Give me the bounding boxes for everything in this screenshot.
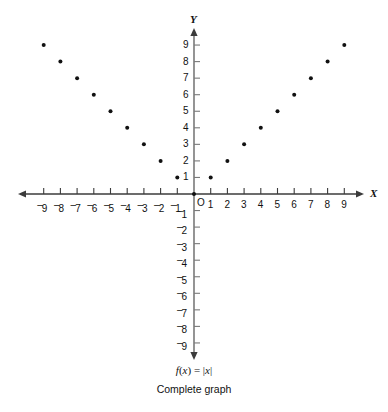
data-point [75, 76, 79, 80]
data-point [58, 60, 62, 64]
absolute-value-graph-figure: X Y O –9–8–7–6–5–4–3–2–1123456789 987654… [0, 0, 388, 412]
figure-caption-block: f(x) = |x| Complete graph [0, 364, 388, 395]
x-tick-label: 8 [325, 200, 331, 210]
x-tick-label: 5 [275, 200, 281, 210]
data-point [292, 93, 296, 97]
x-tick-label: 4 [258, 200, 264, 210]
x-tick-label: –6 [87, 200, 97, 214]
y-tick-label: 3 [183, 139, 189, 149]
function-formula: f(x) = |x| [0, 364, 388, 376]
y-tick-label: 5 [183, 106, 189, 116]
data-point [109, 109, 113, 113]
data-point [309, 76, 313, 80]
x-tick-label: 9 [341, 200, 347, 210]
y-tick-label: 2 [183, 156, 189, 166]
data-point [125, 126, 129, 130]
x-tick-label: 6 [291, 200, 297, 210]
x-tick-label: –2 [154, 200, 164, 214]
y-tick-label: –3 [177, 239, 187, 253]
x-tick-label: –5 [104, 200, 114, 214]
formula-equals: = [191, 364, 203, 376]
y-tick-label: 4 [183, 123, 189, 133]
y-tick-label: –8 [177, 321, 187, 335]
x-axis-arrow-right-icon [356, 190, 364, 197]
data-point [209, 175, 213, 179]
y-tick-label: 9 [183, 40, 189, 50]
data-point [92, 93, 96, 97]
y-tick-label: –7 [177, 305, 187, 319]
y-tick-label: –9 [177, 338, 187, 352]
x-axis-label: X [370, 188, 377, 199]
data-point [142, 142, 146, 146]
x-tick-label: 7 [308, 200, 314, 210]
y-tick-label: 7 [183, 73, 189, 83]
data-point [175, 175, 179, 179]
data-point [42, 43, 46, 47]
x-tick-label: –9 [37, 200, 47, 214]
y-tick-label: –4 [177, 255, 187, 269]
y-axis-label: Y [190, 14, 197, 25]
x-tick-label: –4 [121, 200, 131, 214]
x-tick-label: 1 [208, 200, 214, 210]
data-point [326, 60, 330, 64]
data-point [225, 159, 229, 163]
y-tick-label: 8 [183, 57, 189, 67]
y-axis-arrow-up-icon [190, 28, 197, 36]
y-tick-label: –6 [177, 288, 187, 302]
data-point [342, 43, 346, 47]
x-axis-arrow-left-icon [18, 190, 26, 197]
data-point [259, 126, 263, 130]
x-tick-label: –8 [54, 200, 64, 214]
data-point [276, 109, 280, 113]
data-point [192, 192, 196, 196]
caption-text: Complete graph [0, 383, 388, 395]
data-point [242, 142, 246, 146]
y-tick-label: –2 [177, 222, 187, 236]
x-axis-group [18, 190, 364, 197]
y-tick-label: 1 [183, 172, 189, 182]
data-point [159, 159, 163, 163]
x-tick-label: 2 [224, 200, 230, 210]
y-axis-arrow-down-icon [190, 352, 197, 360]
y-tick-label: 6 [183, 90, 189, 100]
formula-bar-close: | [210, 364, 212, 376]
origin-label: O [197, 198, 205, 208]
y-tick-label: –5 [177, 272, 187, 286]
x-tick-label: –3 [137, 200, 147, 214]
y-tick-label: –1 [177, 206, 187, 220]
x-tick-label: –7 [71, 200, 81, 214]
x-tick-label: 3 [241, 200, 247, 210]
